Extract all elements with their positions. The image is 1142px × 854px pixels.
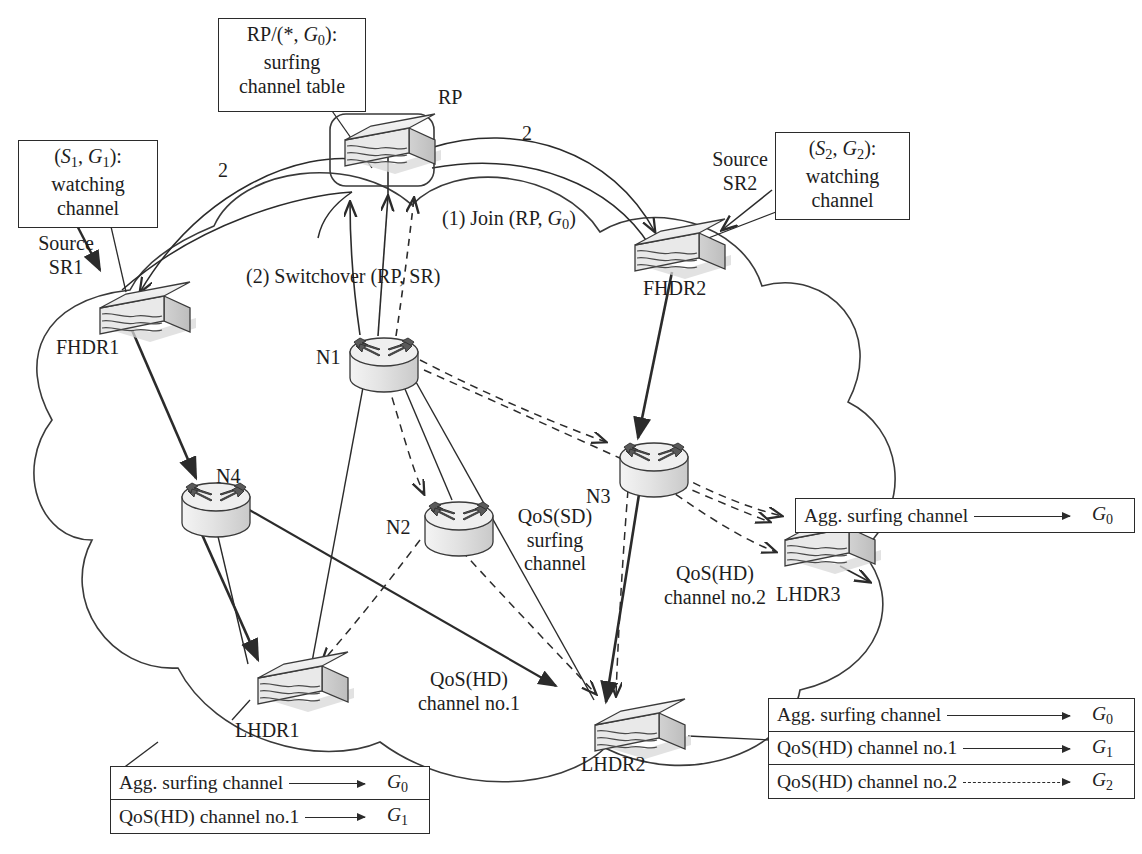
row-value: G2 (1086, 769, 1134, 794)
sr1-watching-channel-box: (S1, G1): watching channel (18, 140, 158, 228)
rp-surfing-channel-table-box: RP/(*, G0): surfing channel table (218, 18, 366, 112)
device-label-n2: N2 (386, 516, 410, 540)
sr1-box-line2: watching (19, 172, 157, 196)
sr1-box-line1: (S1, G1): (19, 144, 157, 172)
device-label-lhdr3: LHDR3 (776, 583, 840, 607)
sr2-box-line1: (S2, G2): (776, 136, 909, 164)
row-label: Agg. surfing channel (119, 772, 283, 794)
device-label-fhdr1: FHDR1 (56, 336, 119, 360)
table-row: Agg. surfing channel G0 (796, 499, 1134, 532)
source-sr1-label: Source SR1 (18, 232, 114, 279)
row-value: G1 (381, 804, 429, 829)
row-label: QoS(HD) channel no.1 (119, 806, 299, 828)
row-arrow-solid (974, 510, 1080, 522)
row-value: G1 (1086, 736, 1134, 761)
metric-label-left: 2 (218, 159, 228, 183)
diagram-canvas: RP/(*, G0): surfing channel table (S1, G… (0, 0, 1142, 854)
row-label: Agg. surfing channel (804, 505, 968, 527)
device-LHDR1 (258, 652, 354, 712)
table-row: QoS(HD) channel no.1 G1 (111, 800, 429, 833)
qos-hd-channel-no2-label: QoS(HD) channel no.2 (650, 562, 780, 609)
device-N1 (350, 338, 418, 392)
row-label: QoS(HD) channel no.2 (777, 771, 957, 793)
device-label-lhdr1: LHDR1 (235, 719, 299, 743)
row-arrow-dashed (963, 776, 1080, 788)
row-label: QoS(HD) channel no.1 (777, 737, 957, 759)
lhdr2-channel-table: Agg. surfing channel G0 QoS(HD) channel … (768, 698, 1135, 799)
row-arrow-solid (963, 742, 1080, 754)
qos-hd-channel-no1-label: QoS(HD) channel no.1 (404, 668, 534, 715)
metric-label-right: 2 (522, 122, 532, 146)
table-row: Agg. surfing channel G0 (769, 699, 1134, 732)
lhdr1-channel-table: Agg. surfing channel G0 QoS(HD) channel … (110, 766, 430, 834)
row-value: G0 (381, 771, 429, 796)
table-row: Agg. surfing channel G0 (111, 767, 429, 800)
row-label: Agg. surfing channel (777, 704, 941, 726)
row-arrow-solid (947, 709, 1080, 721)
step-1-join-label: (1) Join (RP, G0) (442, 207, 576, 233)
device-label-rp: RP (438, 86, 462, 110)
row-arrow-solid (305, 811, 375, 823)
row-value: G0 (1086, 503, 1134, 528)
device-label-n1: N1 (316, 346, 340, 370)
device-N4 (182, 483, 250, 537)
rp-box-line1: RP/(*, G0): (219, 22, 365, 50)
device-N3 (620, 443, 688, 497)
qos-sd-surfing-channel-label: QoS(SD) surfing channel (500, 505, 610, 576)
row-arrow-solid (289, 777, 375, 789)
device-RP (345, 114, 441, 174)
sr2-watching-channel-box: (S2, G2): watching channel (775, 132, 910, 220)
table-row: QoS(HD) channel no.2 G2 (769, 765, 1134, 798)
sr2-box-line2: watching (776, 164, 909, 188)
device-FHDR2 (635, 219, 731, 279)
sr2-box-line3: channel (776, 188, 909, 212)
device-label-n4: N4 (216, 465, 240, 489)
step-2-switchover-label: (2) Switchover (RP, SR) (246, 265, 440, 289)
rp-box-line3: channel table (219, 74, 365, 98)
device-N2 (425, 502, 493, 556)
lhdr3-channel-table: Agg. surfing channel G0 (795, 498, 1135, 533)
sr1-box-line3: channel (19, 196, 157, 220)
source-sr2-label: Source SR2 (700, 148, 780, 195)
device-label-lhdr2: LHDR2 (581, 753, 645, 777)
rp-box-line2: surfing (219, 50, 365, 74)
row-value: G0 (1086, 703, 1134, 728)
table-row: QoS(HD) channel no.1 G1 (769, 732, 1134, 765)
device-label-fhdr2: FHDR2 (643, 277, 706, 301)
device-FHDR1 (100, 282, 196, 342)
